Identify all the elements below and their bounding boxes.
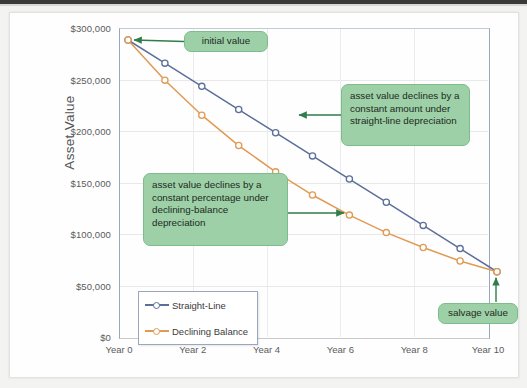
y-axis-tick-label: $0 <box>49 332 111 343</box>
annotation-straight-line-note: asset value declines by a constant amoun… <box>341 84 470 146</box>
y-axis-tick-label: $200,000 <box>49 126 111 137</box>
x-axis-tick-label: Year 8 <box>384 344 444 355</box>
legend-marker-straight-line <box>145 300 169 310</box>
slide-frame: Asset Value $300,000$250,000$200,000$150… <box>9 12 519 378</box>
x-axis-tick-label: Year 4 <box>237 344 297 355</box>
y-axis-tick-label: $100,000 <box>49 229 111 240</box>
x-axis-tick-label: Year 0 <box>89 344 149 355</box>
legend-item-declining-balance[interactable]: Declining Balance <box>139 318 257 344</box>
scan-edge-strip-light <box>0 4 527 6</box>
annotation-declining-balance-note: asset value declines by a constant perce… <box>143 173 288 246</box>
x-axis-tick-label: Year 2 <box>163 344 223 355</box>
y-axis-tick-label: $300,000 <box>49 23 111 34</box>
chart-legend[interactable]: Straight-Line Declining Balance <box>138 291 258 345</box>
legend-label-straight-line: Straight-Line <box>172 300 226 311</box>
annotation-initial-value: initial value <box>184 31 268 52</box>
x-axis-tick-label: Year 10 <box>458 344 518 355</box>
y-axis-tick-label: $50,000 <box>49 280 111 291</box>
y-axis-tick-label: $250,000 <box>49 74 111 85</box>
data-point <box>494 269 500 275</box>
annotation-salvage-value: salvage value <box>438 303 518 324</box>
legend-item-straight-line[interactable]: Straight-Line <box>139 292 257 318</box>
x-axis-tick-label: Year 6 <box>310 344 370 355</box>
legend-label-declining-balance: Declining Balance <box>172 326 248 337</box>
legend-marker-declining-balance <box>145 326 169 336</box>
chart-screenshot: Asset Value $300,000$250,000$200,000$150… <box>0 0 527 388</box>
y-axis-tick-label: $150,000 <box>49 177 111 188</box>
data-point <box>494 269 500 275</box>
